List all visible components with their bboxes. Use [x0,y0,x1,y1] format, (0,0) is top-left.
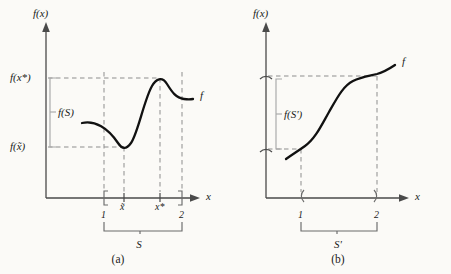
x-tick-label-xstar-a: x* [154,201,164,212]
figure-container: f(x) x f f(x*) f(x̃) f(S) [0,0,451,274]
curve-label-b: f [402,55,407,67]
x-tick-label-one-b: 1 [298,209,303,220]
domain-brace-label-a: S [136,238,142,250]
x-brace-open-b [301,190,304,202]
panel-a: f(x) x f f(x*) f(x̃) f(S) [0,0,226,274]
x-tick-label-xtilde-a: x̃ [119,201,125,212]
y-axis-label-a: f(x) [33,7,49,20]
curve-label-a: f [200,89,205,101]
x-axis-label-b: x [414,190,420,202]
y-axis-b [262,22,270,198]
range-bracket-label-b: f(S') [284,108,303,121]
x-brace-close-b [374,190,377,202]
y-tick-label-fxtilde-a: f(x̃) [10,140,26,153]
y-axis-label-b: f(x) [253,7,269,20]
domain-brace-label-b: S' [334,238,343,250]
caption-b: (b) [331,253,345,266]
curve-f-b [286,65,395,159]
domain-brace-a [104,222,182,234]
y-axis-a [42,22,50,198]
y-tick-label-fxstar-a: f(x*) [10,71,31,84]
x-axis-label-a: x [205,190,211,202]
panel-b: f(x) x f f(S') [225,0,451,274]
x-tick-label-two-a: 2 [179,209,184,220]
curve-f-a [82,79,193,148]
caption-a: (a) [112,253,125,266]
x-tick-label-one-a: 1 [101,209,106,220]
x-axis-b [266,194,409,202]
range-bracket-label-a: f(S) [58,106,74,119]
x-tick-label-two-b: 2 [374,209,379,220]
domain-brace-b [301,222,377,234]
